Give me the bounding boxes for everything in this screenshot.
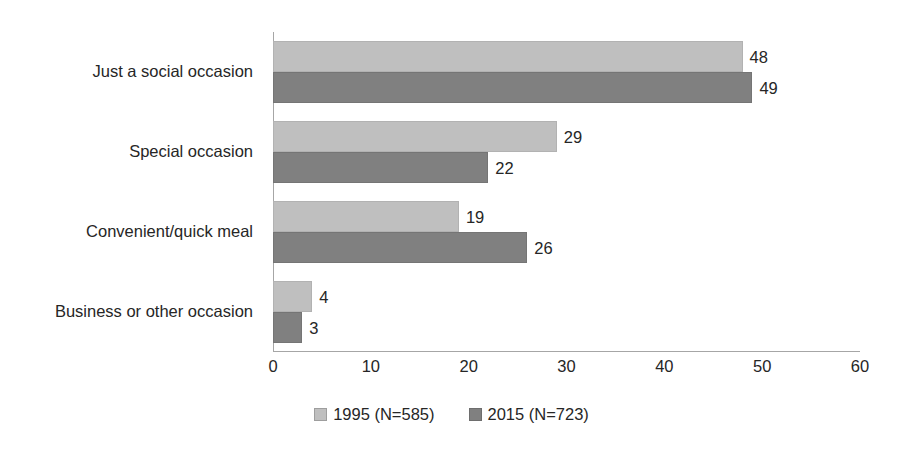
bar-value-2015-business-or-other-occasion: 3 bbox=[309, 320, 318, 337]
category-axis-labels: Just a social occasion Special occasion … bbox=[0, 32, 263, 352]
bar-2015-convenient-quick-meal bbox=[273, 232, 527, 263]
bar-value-1995-special-occasion: 29 bbox=[564, 129, 582, 146]
chart-legend: 1995 (N=585) 2015 (N=723) bbox=[0, 406, 903, 423]
bar-chart: Just a social occasion Special occasion … bbox=[0, 0, 903, 453]
bar-1995-special-occasion bbox=[273, 121, 557, 152]
x-tick-20: 20 bbox=[459, 358, 477, 375]
bar-value-1995-just-a-social-occasion: 48 bbox=[750, 49, 768, 66]
bar-1995-business-or-other-occasion bbox=[273, 281, 312, 312]
legend-item-2015: 2015 (N=723) bbox=[469, 406, 589, 423]
category-label-convenient-quick-meal: Convenient/quick meal bbox=[0, 222, 253, 240]
x-tick-30: 30 bbox=[557, 358, 575, 375]
x-tick-40: 40 bbox=[655, 358, 673, 375]
bar-2015-business-or-other-occasion bbox=[273, 312, 302, 343]
x-axis-line bbox=[273, 351, 860, 352]
bar-value-2015-special-occasion: 22 bbox=[495, 160, 513, 177]
legend-swatch-2015-icon bbox=[469, 408, 482, 421]
x-tick-10: 10 bbox=[362, 358, 380, 375]
legend-label-1995: 1995 (N=585) bbox=[333, 406, 434, 423]
x-tick-0: 0 bbox=[268, 358, 277, 375]
bar-2015-just-a-social-occasion bbox=[273, 72, 752, 103]
bar-value-1995-business-or-other-occasion: 4 bbox=[319, 289, 328, 306]
bar-2015-special-occasion bbox=[273, 152, 488, 183]
bar-value-1995-convenient-quick-meal: 19 bbox=[466, 209, 484, 226]
legend-label-2015: 2015 (N=723) bbox=[488, 406, 589, 423]
bar-1995-convenient-quick-meal bbox=[273, 201, 459, 232]
bar-1995-just-a-social-occasion bbox=[273, 41, 743, 72]
category-label-special-occasion: Special occasion bbox=[0, 142, 253, 160]
bar-value-2015-convenient-quick-meal: 26 bbox=[534, 240, 552, 257]
x-tick-60: 60 bbox=[851, 358, 869, 375]
bar-value-2015-just-a-social-occasion: 49 bbox=[759, 80, 777, 97]
legend-item-1995: 1995 (N=585) bbox=[314, 406, 434, 423]
x-tick-50: 50 bbox=[753, 358, 771, 375]
plot-area: 48 49 29 22 19 26 4 3 bbox=[273, 32, 860, 352]
category-label-just-a-social-occasion: Just a social occasion bbox=[0, 62, 253, 80]
legend-swatch-1995-icon bbox=[314, 408, 327, 421]
category-label-business-or-other-occasion: Business or other occasion bbox=[0, 302, 253, 320]
x-axis-tick-labels: 0 10 20 30 40 50 60 bbox=[273, 358, 860, 386]
